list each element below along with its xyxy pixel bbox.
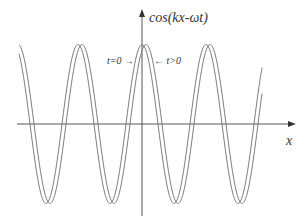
y-axis-arrow-icon: [139, 9, 145, 17]
annotation-t1: ← t>0: [154, 55, 181, 66]
annotation-t0: t=0 →: [107, 55, 134, 66]
wave-diagram: cos(kx-ωt) x t=0 → ← t>0: [0, 0, 306, 222]
x-axis-label: x: [285, 133, 293, 148]
x-axis-arrow-icon: [288, 121, 296, 127]
y-axis-label: cos(kx-ωt): [149, 10, 208, 26]
